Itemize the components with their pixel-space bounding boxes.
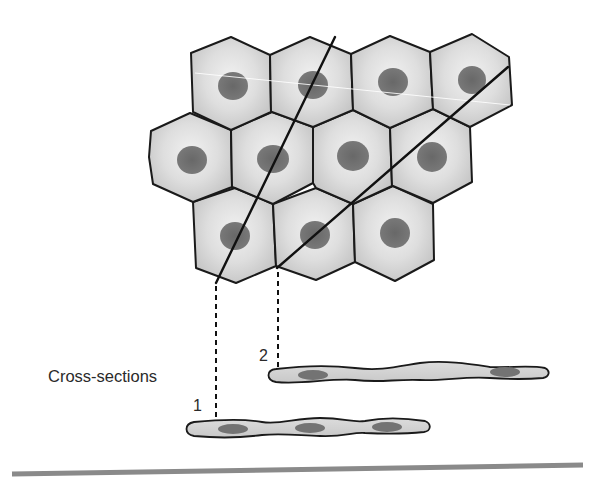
epithelial-cell — [149, 113, 232, 202]
nucleus — [337, 141, 369, 171]
projection-lines — [216, 272, 278, 421]
epithelial-cell — [193, 188, 276, 283]
cross-sections-label: Cross-sections — [48, 368, 157, 385]
section-2-label: 2 — [259, 348, 268, 364]
baseline-rule — [12, 465, 583, 474]
nucleus — [177, 146, 207, 174]
nucleus — [380, 218, 410, 248]
section-1-label: 1 — [193, 398, 202, 414]
nucleus — [257, 145, 289, 173]
epithelial-cell — [353, 186, 434, 281]
epithelial-cell — [430, 34, 512, 127]
epithelial-cell — [351, 36, 433, 128]
nucleus — [490, 367, 520, 377]
nucleus — [295, 423, 325, 433]
cell-sheet — [149, 34, 512, 283]
nucleus — [298, 370, 328, 380]
nucleus — [372, 422, 402, 432]
epithelial-cell — [231, 112, 313, 204]
epithelium-diagram — [0, 0, 609, 478]
nucleus — [417, 142, 447, 172]
cross-section-2 — [269, 362, 549, 383]
nucleus — [218, 424, 248, 434]
cross-section-1 — [187, 418, 430, 437]
epithelial-cell — [191, 37, 271, 130]
epithelial-cell — [273, 188, 355, 280]
